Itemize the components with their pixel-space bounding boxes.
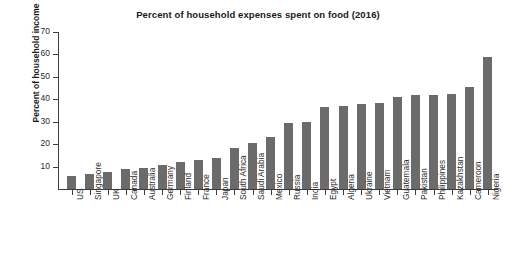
y-axis-tick: 30 xyxy=(53,122,58,123)
x-axis-tick-label: South Africa xyxy=(238,155,248,200)
y-axis-tick-label: 70 xyxy=(41,26,50,36)
plot-area: 10203040506070 USSingaporeUKCanadaAustra… xyxy=(58,32,498,190)
x-axis-tick-label: Nigeria xyxy=(491,174,501,200)
x-axis-tick xyxy=(216,190,217,195)
x-axis-tick-label: Russia xyxy=(292,175,302,200)
y-axis-tick-label: 10 xyxy=(41,161,50,171)
y-axis-tick: 40 xyxy=(53,99,58,100)
x-axis-tick xyxy=(307,190,308,195)
x-axis-tick xyxy=(470,190,471,195)
x-axis-tick xyxy=(180,190,181,195)
y-axis-tick: 50 xyxy=(53,77,58,78)
y-axis-tick: 60 xyxy=(53,54,58,55)
x-axis-tick xyxy=(271,190,272,195)
x-axis-tick-label: Vietnam xyxy=(382,170,392,200)
x-axis-tick-label: Ukraine xyxy=(364,171,374,200)
y-axis-tick-label: 50 xyxy=(41,71,50,81)
x-axis-tick-label: Guatemala xyxy=(401,159,411,200)
y-axis-tick-label: 30 xyxy=(41,116,50,126)
x-axis-tick xyxy=(452,190,453,195)
x-axis-tick xyxy=(234,190,235,195)
x-axis-tick xyxy=(289,190,290,195)
x-axis-tick-label: Philippines xyxy=(437,160,447,200)
x-axis-tick-label: Japan xyxy=(220,177,230,200)
y-axis-tick-label: 20 xyxy=(41,138,50,148)
bar xyxy=(320,107,329,189)
x-axis-tick xyxy=(488,190,489,195)
bar xyxy=(103,172,112,189)
y-axis-tick: 70 xyxy=(53,32,58,33)
x-axis-tick xyxy=(144,190,145,195)
x-axis-tick-label: Kazakhstan xyxy=(455,157,465,200)
y-axis-title: Percent of household income xyxy=(31,0,41,143)
x-axis-tick-label: Finland xyxy=(183,173,193,200)
x-axis-tick-label: Algeria xyxy=(346,174,356,200)
x-axis-tick-label: Egypt xyxy=(328,179,338,200)
x-axis-tick xyxy=(343,190,344,195)
y-axis-tick-label: 40 xyxy=(41,93,50,103)
x-axis-tick xyxy=(397,190,398,195)
x-axis-tick xyxy=(90,190,91,195)
x-axis-tick-label: Pakistan xyxy=(419,168,429,200)
x-axis-tick xyxy=(415,190,416,195)
x-axis-tick-label: India xyxy=(310,182,320,200)
x-axis-tick-label: Mexico xyxy=(274,174,284,200)
x-axis-tick xyxy=(361,190,362,195)
x-axis-tick-label: Singapore xyxy=(93,162,103,200)
x-axis-tick-label: US xyxy=(75,188,85,200)
y-axis-tick-label: 60 xyxy=(41,48,50,58)
x-axis-tick-label: Australia xyxy=(147,168,157,200)
x-axis-tick xyxy=(162,190,163,195)
x-axis-tick xyxy=(198,190,199,195)
x-axis-tick-label: Saudi Arabia xyxy=(256,153,266,200)
y-axis-tick: 20 xyxy=(53,144,58,145)
x-axis-tick xyxy=(72,190,73,195)
x-axis-tick-label: UK xyxy=(111,188,121,200)
x-axis-tick xyxy=(253,190,254,195)
x-axis-tick xyxy=(126,190,127,195)
chart-title: Percent of household expenses spent on f… xyxy=(0,9,516,20)
x-axis-tick xyxy=(325,190,326,195)
y-axis-line xyxy=(58,32,59,190)
x-axis-tick-label: France xyxy=(201,174,211,200)
bar xyxy=(67,176,76,189)
x-axis-tick xyxy=(108,190,109,195)
x-axis-tick-label: Canada xyxy=(129,171,139,200)
bar xyxy=(302,122,311,189)
y-axis-tick: 10 xyxy=(53,167,58,168)
bar-chart: Percent of household expenses spent on f… xyxy=(0,0,516,266)
x-axis-tick-label: Cameroon xyxy=(473,161,483,200)
bar xyxy=(483,57,492,189)
x-axis-tick-label: Germany xyxy=(165,166,175,200)
x-axis-tick xyxy=(434,190,435,195)
x-axis-tick xyxy=(379,190,380,195)
